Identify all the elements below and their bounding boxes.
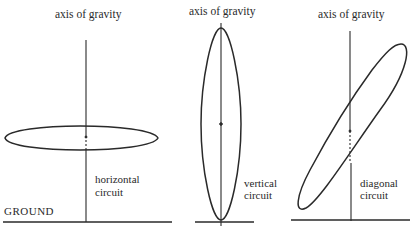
label-horizontal: horizontal [95, 173, 140, 185]
center-dot-middle [220, 123, 223, 126]
horizontal-circuit-ellipse [5, 126, 158, 150]
label-vertical-circuit: circuit [244, 189, 272, 201]
center-dot-right [349, 130, 351, 132]
label-diagonal: diagonal [360, 177, 398, 189]
panel-title-horizontal: axis of gravity [55, 8, 121, 20]
label-vertical: vertical [244, 177, 277, 189]
panel-title-diagonal: axis of gravity [318, 8, 384, 20]
diagram-graphics [0, 0, 414, 226]
label-diagonal-circuit: circuit [360, 189, 388, 201]
gravity-circuits-diagram: axis of gravity axis of gravity axis of … [0, 0, 414, 226]
panel-title-vertical: axis of gravity [189, 5, 255, 17]
label-horizontal-circuit: circuit [95, 186, 123, 198]
ground-label: GROUND [4, 205, 54, 217]
center-dot-left [85, 136, 87, 138]
